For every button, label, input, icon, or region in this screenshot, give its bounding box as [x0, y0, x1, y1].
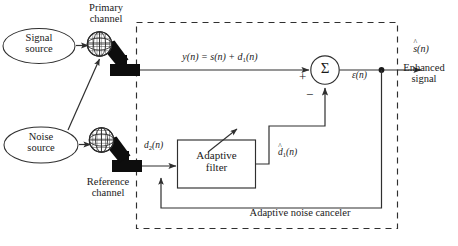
noise-source-label-line1: Noise [27, 131, 54, 142]
dhat-hat: ^ [279, 142, 282, 151]
canceler-caption-text: Adaptive noise canceler [250, 207, 351, 218]
canceler-enclosure-boundary [137, 23, 398, 229]
canceler-enclosure-caption: Adaptive noise canceler [250, 207, 351, 218]
minus-glyph: − [306, 87, 313, 102]
enhanced-caption-line2: signal [403, 73, 444, 84]
adaptive-filter-label: Adaptive filter [196, 150, 236, 174]
filter-output-label: ^d1(n) [278, 147, 297, 159]
plus-glyph: + [299, 69, 306, 84]
eq-paren-n3: (n) [246, 51, 258, 62]
arrow-noise-to-primary-mic [68, 59, 100, 130]
signal-source-label-line1: Signal [25, 32, 52, 43]
adder-plus-sign: + [299, 70, 306, 84]
primary-channel-label-line1: Primary [89, 2, 123, 13]
noise-source-label: Noise source [27, 131, 54, 154]
eq-plus: + [228, 51, 235, 62]
signal-source-label: Signal source [25, 32, 52, 55]
signal-source-label-line2: source [25, 43, 52, 54]
enhanced-caption-line1: Enhanced [403, 62, 444, 73]
adder-minus-sign: − [306, 88, 313, 102]
summation-symbol: Σ [321, 60, 330, 76]
eq-paren-n1: (n) [187, 51, 199, 62]
enhanced-signal-caption: Enhanced signal [403, 62, 444, 85]
dhat-paren: (n) [286, 147, 297, 157]
reference-channel-label-line1: Reference [87, 176, 130, 187]
adaptive-filter-label-line2: filter [196, 162, 236, 174]
primary-equation-label: y(n) = s(n) + d1(n) [182, 52, 257, 63]
primary-channel-label: Primary channel [89, 2, 123, 25]
reference-microphone-icon [89, 128, 142, 172]
diagram-graphics [0, 0, 458, 246]
shat-hat: ^ [413, 38, 417, 47]
reference-input-label: d2(n) [144, 140, 163, 152]
reference-channel-label: Reference channel [87, 176, 130, 199]
figure-canvas: Signal source Noise source Primary chann… [0, 0, 458, 246]
error-signal-label: ε(n) [352, 70, 367, 80]
primary-channel-label-line2: channel [89, 13, 123, 24]
sigma-glyph: Σ [321, 60, 330, 76]
eq-paren-n2: (n) [214, 51, 226, 62]
d2-paren: (n) [152, 140, 163, 150]
shat-paren: (n) [417, 43, 429, 54]
eps-paren: (n) [356, 70, 367, 80]
enhanced-signal-label: ^s(n) [413, 44, 429, 55]
eq-equals: = [201, 51, 208, 62]
noise-source-label-line2: source [27, 142, 54, 153]
reference-channel-label-line2: channel [87, 187, 130, 198]
